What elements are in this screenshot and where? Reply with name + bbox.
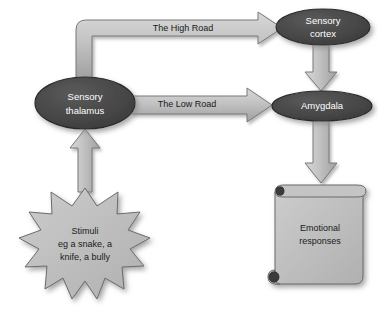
flow-diagram-svg: The High Road The Low Road Stimuli eg a … (0, 0, 378, 328)
arrow-stimuli-to-thalamus (70, 129, 100, 192)
arrow-amygdala-to-responses (305, 120, 337, 183)
stimuli-label-line3: knife, a bully (60, 252, 111, 262)
stimuli-label-line1: Stimuli (71, 226, 98, 236)
stimuli-label-line2: eg a snake, a (58, 239, 112, 249)
diagram-canvas: The High Road The Low Road Stimuli eg a … (0, 0, 378, 328)
arrow-label-low-road: The Low Road (158, 99, 217, 109)
emotional-responses-label-line2: responses (299, 236, 341, 246)
scroll-curl-bottom-icon (269, 272, 279, 282)
node-label-thalamus-line1: Sensory (68, 91, 103, 102)
emotional-responses-label-line1: Emotional (300, 223, 340, 233)
arrow-cortex-to-amygdala (305, 44, 337, 91)
node-label-cortex-line2: cortex (310, 28, 336, 39)
node-label-amygdala: Amygdala (301, 100, 344, 111)
arrow-label-high-road: The High Road (153, 23, 214, 33)
arrow-high-road (76, 12, 282, 80)
node-label-cortex-line1: Sensory (306, 15, 341, 26)
node-sensory-thalamus[interactable] (35, 77, 135, 129)
scroll-curl-top-icon (276, 187, 284, 195)
node-label-thalamus-line2: thalamus (66, 105, 105, 116)
shape-emotional-scroll (268, 185, 366, 284)
